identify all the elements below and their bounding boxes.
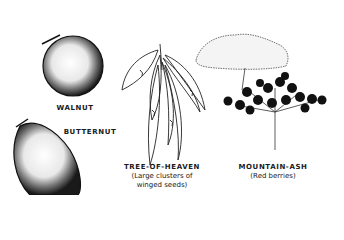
tree-of-heaven-caption-1: (Large clusters of: [122, 172, 202, 181]
tree-of-heaven-caption-2: winged seeds): [122, 181, 202, 190]
walnut-label: WALNUT: [50, 104, 100, 112]
tree-of-heaven-drawing: [122, 44, 205, 165]
mountain-ash-drawing: [196, 34, 327, 150]
mountain-ash-caption: (Red berries): [228, 172, 318, 181]
butternut-label: BUTTERNUT: [60, 128, 120, 136]
tree-of-heaven-label: TREE-OF-HEAVEN: [122, 163, 202, 171]
walnut-drawing: [42, 35, 103, 96]
mountain-ash-label: MOUNTAIN-ASH: [228, 163, 318, 171]
